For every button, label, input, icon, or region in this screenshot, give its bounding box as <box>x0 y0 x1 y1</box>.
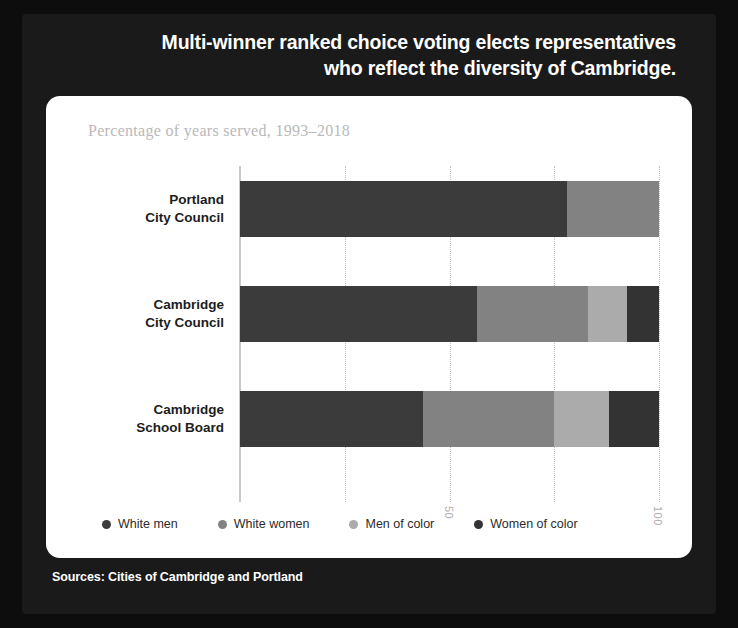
legend-label: White women <box>234 517 310 531</box>
category-label-line: Cambridge <box>153 402 224 417</box>
legend-swatch-icon <box>349 520 358 529</box>
source-note: Sources: Cities of Cambridge and Portlan… <box>52 570 303 584</box>
gridline-100 <box>659 166 661 502</box>
bar-segment[interactable] <box>609 391 659 447</box>
category-label: CambridgeSchool Board <box>54 401 224 437</box>
headline: Multi-winner ranked choice voting elects… <box>62 30 676 81</box>
bar-row[interactable] <box>240 391 659 447</box>
legend-label: Men of color <box>365 517 434 531</box>
category-label: CambridgeCity Council <box>54 296 224 332</box>
bar-segment[interactable] <box>477 286 588 342</box>
legend-item[interactable]: White men <box>102 517 178 531</box>
bar-segment[interactable] <box>588 286 627 342</box>
legend-item[interactable]: White women <box>218 517 310 531</box>
chart-plot-area: 50100 PortlandCity CouncilCambridgeCity … <box>46 96 692 558</box>
category-label-line: City Council <box>145 315 224 330</box>
bar-segment[interactable] <box>240 391 423 447</box>
bar-row[interactable] <box>240 181 659 237</box>
legend-swatch-icon <box>218 520 227 529</box>
poster-container: Multi-winner ranked choice voting elects… <box>22 14 716 614</box>
bar-segment[interactable] <box>240 286 477 342</box>
bar-segment[interactable] <box>240 181 567 237</box>
bar-segment[interactable] <box>567 181 659 237</box>
legend-item[interactable]: Women of color <box>474 517 577 531</box>
legend-label: Women of color <box>490 517 577 531</box>
chart-card: Percentage of years served, 1993–2018 50… <box>46 96 692 558</box>
legend-label: White men <box>118 517 178 531</box>
headline-line-2: who reflect the diversity of Cambridge. <box>324 57 676 79</box>
headline-line-1: Multi-winner ranked choice voting elects… <box>162 31 676 53</box>
bar-row[interactable] <box>240 286 659 342</box>
legend-item[interactable]: Men of color <box>349 517 434 531</box>
bar-segment[interactable] <box>627 286 659 342</box>
chart-legend: White menWhite womenMen of colorWomen of… <box>102 517 662 531</box>
category-label-line: Cambridge <box>153 297 224 312</box>
legend-swatch-icon <box>102 520 111 529</box>
category-label-line: City Council <box>145 210 224 225</box>
category-label-line: School Board <box>136 420 224 435</box>
legend-swatch-icon <box>474 520 483 529</box>
bar-segment[interactable] <box>423 391 554 447</box>
bar-segment[interactable] <box>554 391 609 447</box>
category-label-line: Portland <box>169 192 224 207</box>
category-label: PortlandCity Council <box>54 191 224 227</box>
